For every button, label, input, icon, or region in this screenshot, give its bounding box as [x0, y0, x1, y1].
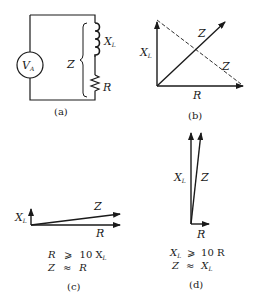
xl-label: XL [139, 46, 152, 59]
z-label: Z [200, 171, 209, 184]
caption-a: (a) [54, 106, 68, 117]
condition-1: XL⩾10 R [169, 247, 225, 259]
resistor-label: R [102, 81, 111, 94]
panel-c-phasor: XL Z R R⩾10 XL Z≈R (c) [14, 200, 120, 292]
xl-label: XL [14, 211, 27, 224]
z-dashed-label: Z [221, 60, 230, 73]
inductor-icon [95, 23, 100, 57]
impedance-brace-icon [80, 23, 87, 97]
caption-c: (c) [67, 281, 81, 292]
impedance-label: Z [66, 58, 75, 71]
resistor-icon [91, 75, 99, 93]
caption-d: (d) [189, 279, 203, 290]
inductor-label: XL [103, 35, 116, 48]
r-label: R [192, 89, 201, 102]
z-vector [157, 22, 225, 86]
panel-d-phasor: XL Z R XL⩾10 R Z≈XL (d) [169, 133, 225, 290]
r-label: R [196, 228, 205, 241]
phasor-figure: VA XL R Z (a) XL Z Z R (b) XL Z R R⩾10 X… [0, 0, 253, 306]
z-vector [191, 133, 201, 224]
caption-b: (b) [188, 110, 202, 121]
panel-b-phasor: XL Z Z R (b) [139, 20, 243, 121]
condition-2: Z≈R [47, 262, 87, 273]
xl-label: XL [173, 171, 186, 184]
panel-a-circuit: VA XL R Z (a) [17, 15, 116, 117]
condition-1: R⩾10 XL [47, 249, 107, 261]
r-label: R [95, 227, 104, 240]
z-vector [31, 214, 120, 225]
z-label: Z [93, 200, 102, 213]
condition-2: Z≈XL [171, 260, 212, 272]
z-label: Z [197, 27, 206, 40]
